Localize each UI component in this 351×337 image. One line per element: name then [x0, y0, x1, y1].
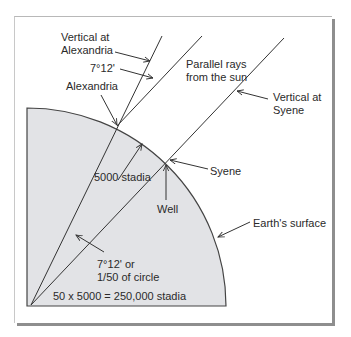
label-vertical-alexandria-1: Vertical at	[61, 31, 109, 44]
label-circumference: 50 x 5000 = 250,000 stadia	[53, 290, 186, 303]
arrow-vertical-alexandria	[115, 52, 150, 61]
label-well: Well	[157, 203, 178, 216]
label-alexandria: Alexandria	[66, 80, 118, 93]
arrow-angle-top	[120, 69, 153, 78]
arrow-alexandria	[101, 95, 117, 125]
label-angle-top: 7°12'	[90, 62, 115, 75]
label-vertical-syene-2: Syene	[273, 104, 304, 117]
label-vertical-alexandria-2: Alexandria	[61, 44, 113, 57]
label-syene: Syene	[210, 165, 241, 178]
label-parallel-rays-2: from the sun	[186, 71, 247, 84]
diagram-canvas	[0, 0, 351, 337]
arrow-syene	[170, 160, 208, 169]
label-angle-center-1: 7°12' or	[97, 258, 135, 271]
label-parallel-rays-1: Parallel rays	[186, 58, 247, 71]
arrow-earth-surface	[218, 222, 250, 237]
label-vertical-syene-1: Vertical at	[273, 91, 321, 104]
label-distance: 5000 stadia	[94, 171, 151, 184]
label-angle-center-2: 1/50 of circle	[97, 271, 159, 284]
arrow-vertical-syene	[237, 91, 268, 99]
label-earth-surface: Earth's surface	[253, 217, 326, 230]
